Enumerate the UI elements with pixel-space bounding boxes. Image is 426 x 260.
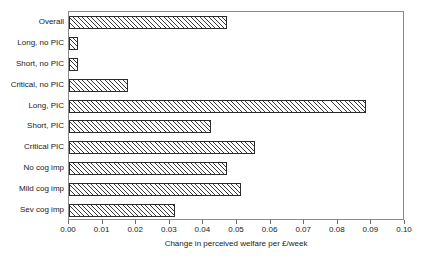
bar-row [69,33,403,54]
y-axis-label-text: Mild cog imp [19,184,64,193]
x-axis-tick-label: 0.06 [262,225,278,235]
y-axis-label-text: Long, no PIC [17,38,64,47]
bar-row [69,116,403,137]
x-axis-tick-label: 0.02 [127,225,143,235]
bar [69,58,78,71]
x-axis-tick [270,220,271,224]
x-axis-tick [303,220,304,224]
bar-row [69,158,403,179]
y-axis-label: No cog imp [0,157,64,178]
y-axis-label: Critical PIC [0,136,64,157]
x-axis-tick [68,220,69,224]
bar-row [69,54,403,75]
x-axis-tick-label: 0.09 [363,225,379,235]
y-axis-label: Overall [0,11,64,32]
bar [69,204,175,217]
y-axis-label-text: Short, no PIC [16,59,64,68]
bar [69,162,227,175]
bar [69,120,211,133]
x-axis-tick-label: 0.00 [60,225,76,235]
x-axis-tick-labels: 0.000.010.020.030.040.050.060.070.080.09… [68,225,404,237]
x-axis-tick-label: 0.01 [94,225,110,235]
bar-row [69,75,403,96]
x-axis-tick [135,220,136,224]
y-axis-label: Critical, no PIC [0,74,64,95]
bar [69,183,241,196]
bar-row [69,96,403,117]
x-axis-tick [236,220,237,224]
y-axis-label-text: No cog imp [24,163,64,172]
y-axis-category-labels: OverallLong, no PICShort, no PICCritical… [0,11,64,220]
x-axis-title: Change in perceived welfare per £/week [68,239,404,249]
x-axis-tick-label: 0.05 [228,225,244,235]
bar-row [69,12,403,33]
bar [69,16,227,29]
x-axis-tick-label: 0.07 [295,225,311,235]
y-axis-label-text: Long, PIC [28,101,64,110]
x-axis-tick [370,220,371,224]
bar-row [69,200,403,221]
x-axis-tick [202,220,203,224]
bars-group [69,12,403,219]
x-axis-tick [169,220,170,224]
bar [69,141,255,154]
y-axis-label: Long, no PIC [0,32,64,53]
x-axis-tick [102,220,103,224]
y-axis-label: Short, no PIC [0,53,64,74]
y-axis-label-text: Overall [39,17,64,26]
bar [69,37,78,50]
y-axis-label-text: Critical PIC [24,142,64,151]
x-axis-tick [337,220,338,224]
bar-row [69,179,403,200]
bar-row [69,137,403,158]
plot-area [68,11,404,220]
x-axis-tick-label: 0.08 [329,225,345,235]
y-axis-label-text: Sev cog imp [20,205,64,214]
y-axis-label-text: Critical, no PIC [11,80,64,89]
x-axis-tick [404,220,405,224]
y-axis-label: Sev cog imp [0,199,64,220]
x-axis-tick-label: 0.03 [161,225,177,235]
bar-chart-figure: OverallLong, no PICShort, no PICCritical… [0,0,426,260]
x-axis-tick-label: 0.04 [195,225,211,235]
bar [69,79,128,92]
y-axis-label-text: Short, PIC [27,121,64,130]
y-axis-label: Long, PIC [0,95,64,116]
y-axis-label: Short, PIC [0,115,64,136]
y-axis-label: Mild cog imp [0,178,64,199]
bar [69,100,366,113]
x-axis-tick-label: 0.10 [396,225,412,235]
